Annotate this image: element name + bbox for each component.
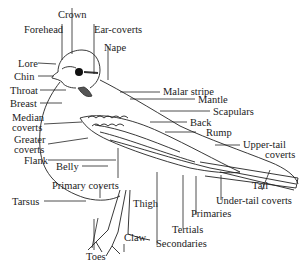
- label-secondaries: Secondaries: [156, 239, 207, 249]
- label-tail: Tail: [252, 181, 268, 191]
- label-toes: Toes: [86, 252, 106, 262]
- bird-illustration: [0, 0, 305, 270]
- label-claw: Claw: [124, 233, 146, 243]
- label-tarsus: Tarsus: [12, 197, 39, 207]
- label-rump: Rump: [206, 128, 232, 138]
- label-breast: Breast: [10, 99, 37, 109]
- label-mantle: Mantle: [198, 95, 228, 105]
- label-throat: Throat: [10, 86, 38, 96]
- label-primary-coverts: Primary coverts: [52, 181, 119, 191]
- label-crown: Crown: [58, 10, 87, 20]
- label-thigh: Thigh: [133, 199, 158, 209]
- eye-icon: [75, 68, 83, 76]
- label-ear-coverts-text: Ear-coverts: [94, 25, 142, 35]
- label-tertials: Tertials: [172, 225, 203, 235]
- label-median-coverts-2: coverts: [12, 123, 42, 133]
- label-scapulars: Scapulars: [213, 107, 254, 117]
- label-flank: Flank: [24, 156, 48, 166]
- label-nape: Nape: [104, 43, 126, 53]
- label-upper-tail-coverts-2: coverts: [265, 150, 295, 160]
- label-greater-coverts-2: coverts: [14, 145, 44, 155]
- label-lore: Lore: [18, 59, 38, 69]
- label-belly: Belly: [56, 162, 79, 172]
- label-chin: Chin: [14, 72, 34, 82]
- label-primaries: Primaries: [191, 209, 231, 219]
- label-forehead: Forehead: [24, 25, 63, 35]
- label-under-tail-coverts: Under-tail coverts: [216, 196, 292, 206]
